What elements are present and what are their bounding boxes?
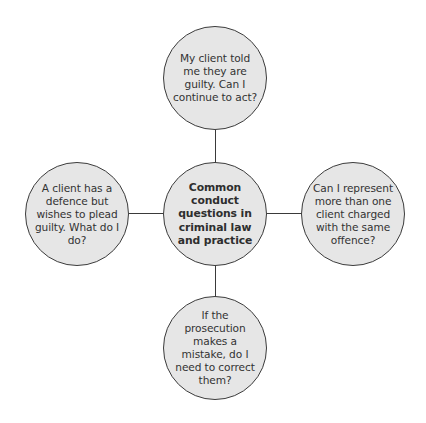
- mind-map-diagram: My client told me they are guilty. Can I…: [0, 0, 426, 423]
- node-center-label: Common conduct questions in criminal law…: [165, 181, 265, 247]
- node-right-question: Can I represent more than one client cha…: [301, 162, 405, 266]
- node-bottom-question: If the prosecution makes a mistake, do I…: [163, 296, 267, 400]
- node-left-question: A client has a defence but wishes to ple…: [25, 162, 129, 266]
- node-top-question: My client told me they are guilty. Can I…: [163, 26, 267, 130]
- connector-top: [215, 130, 216, 163]
- connector-bottom: [215, 265, 216, 297]
- connector-right: [267, 213, 302, 214]
- node-center-topic: Common conduct questions in criminal law…: [163, 162, 267, 266]
- node-bottom-label: If the prosecution makes a mistake, do I…: [164, 309, 266, 387]
- node-left-label: A client has a defence but wishes to ple…: [26, 182, 128, 247]
- node-top-label: My client told me they are guilty. Can I…: [167, 52, 263, 104]
- node-right-label: Can I represent more than one client cha…: [302, 182, 404, 247]
- connector-left: [129, 213, 163, 214]
